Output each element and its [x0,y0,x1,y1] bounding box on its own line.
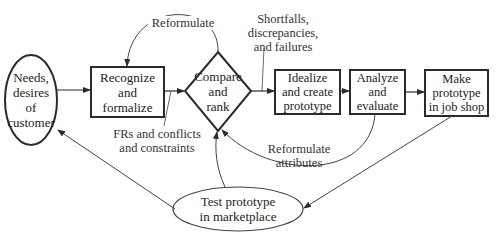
compare-line-3: rank [206,99,229,114]
analyze-line-3: evaluate [357,99,399,113]
leader-frs [164,91,171,126]
compare-line-1: Compare [194,69,242,84]
test-line-2: in marketplace [200,209,277,224]
compare-line-2: and [209,84,228,99]
test-line-1: Test prototype [201,194,276,209]
reformulate-label: Reformulate [148,16,218,30]
frs-line-1: FRs and conflicts [108,127,206,141]
reformulate-attributes-line-1: Reformulate [264,142,334,156]
needs-label: Needs, desires of customer [5,60,57,140]
make-line-1: Make [442,72,470,86]
needs-line-1: Needs, [13,70,49,85]
frs-line-2: and constraints [108,141,206,155]
make-line-3: in job shop [429,100,485,114]
shortfalls-label: Shortfalls, discrepancies, and failures [238,12,328,54]
compare-label: Compare and rank [185,65,251,117]
recognize-line-1: Recognize and [91,70,164,100]
edge-test-compare [216,132,225,187]
make-line-2: prototype [433,86,481,100]
frs-label: FRs and conflicts and constraints [108,127,206,155]
recognize-line-2: formalize [103,100,153,115]
idealize-line-2: and create [282,85,333,99]
test-label: Test prototype in marketplace [173,190,303,228]
idealize-line-3: prototype [284,99,332,113]
reformulate-attributes-label: Reformulate attributes [264,142,334,170]
shortfalls-line-2: discrepancies, [238,26,328,40]
needs-line-4: customer [7,115,55,130]
idealize-line-1: Idealize [288,71,328,85]
analyze-line-2: and [368,85,386,99]
needs-line-3: of [26,100,37,115]
needs-line-2: desires [13,85,49,100]
leader-shortfalls [262,48,264,91]
recognize-label: Recognize and formalize [91,67,164,117]
make-label: Make prototype in job shop [425,70,488,116]
reformulate-attributes-line-2: attributes [264,156,334,170]
analyze-label: Analyze and evaluate [350,70,405,114]
idealize-label: Idealize and create prototype [275,70,340,114]
shortfalls-line-3: and failures [238,40,328,54]
analyze-line-1: Analyze [357,71,399,85]
shortfalls-line-1: Shortfalls, [238,12,328,26]
